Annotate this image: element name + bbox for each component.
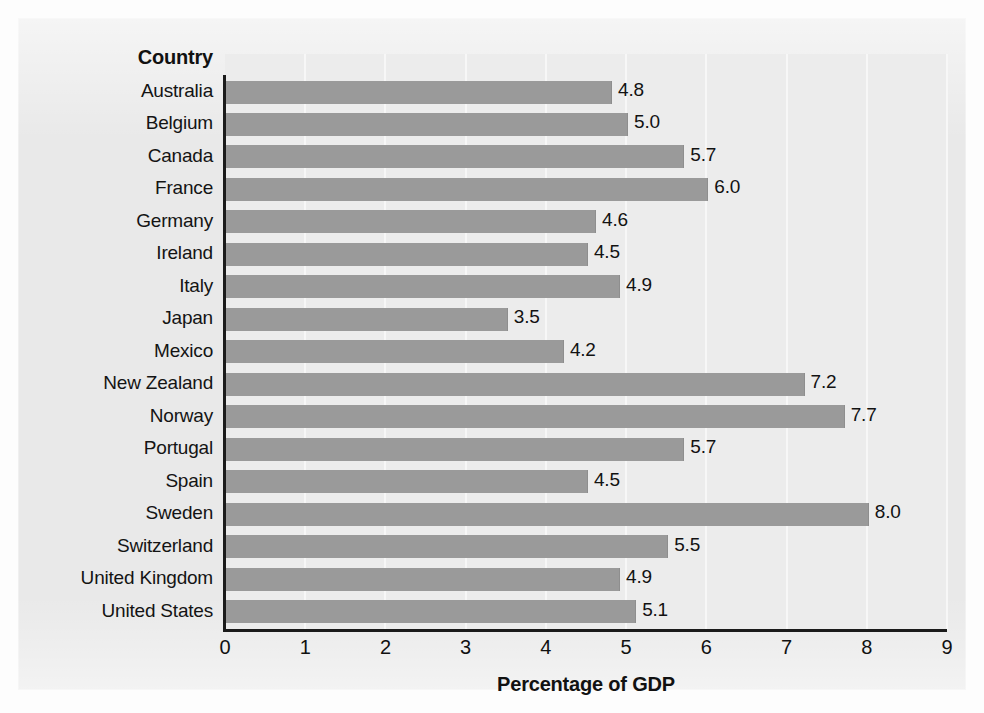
bar-value-label: 4.2	[570, 339, 596, 361]
bar	[226, 373, 805, 396]
bar-value-label: 4.9	[626, 566, 652, 588]
bar-value-label: 4.5	[594, 241, 620, 263]
bar	[226, 405, 845, 428]
bar	[226, 113, 628, 136]
x-axis-title: Percentage of GDP	[225, 673, 947, 696]
category-label: Italy	[179, 275, 213, 297]
bar	[226, 438, 684, 461]
bar-row: New Zealand7.2	[18, 369, 984, 401]
category-label: Switzerland	[117, 535, 213, 557]
category-label: Spain	[165, 470, 213, 492]
category-label: Sweden	[146, 502, 213, 524]
category-label: Norway	[150, 405, 213, 427]
category-label: Canada	[148, 145, 213, 167]
x-axis-tick-labels: 0123456789	[18, 636, 984, 666]
bar-row: United Kingdom4.9	[18, 564, 984, 596]
category-label: France	[155, 177, 213, 199]
bar	[226, 210, 596, 233]
bar-rows: Australia4.8Belgium5.0Canada5.7France6.0…	[18, 77, 984, 629]
bar-row: Sweden8.0	[18, 499, 984, 531]
figure: Country Australia4.8Belgium5.0Canada5.7F…	[0, 0, 984, 713]
bar-value-label: 5.0	[634, 111, 660, 133]
x-axis-tick-label: 1	[285, 636, 325, 659]
bar	[226, 535, 668, 558]
bar-value-label: 4.9	[626, 274, 652, 296]
bar-value-label: 5.7	[690, 436, 716, 458]
category-label: New Zealand	[103, 372, 213, 394]
bar	[226, 600, 636, 623]
bar-value-label: 4.8	[618, 79, 644, 101]
bar-row: France6.0	[18, 174, 984, 206]
x-axis-line	[223, 629, 947, 632]
chart-panel: Country Australia4.8Belgium5.0Canada5.7F…	[18, 18, 966, 690]
bar-row: United States5.1	[18, 597, 984, 629]
bar	[226, 340, 564, 363]
bar-value-label: 5.7	[690, 144, 716, 166]
bar	[226, 243, 588, 266]
category-label: Australia	[141, 80, 213, 102]
bar-row: Portugal5.7	[18, 434, 984, 466]
bar-value-label: 7.2	[811, 371, 837, 393]
category-label: Belgium	[146, 112, 213, 134]
bar-row: Italy4.9	[18, 272, 984, 304]
bar	[226, 503, 869, 526]
x-axis-tick-label: 5	[606, 636, 646, 659]
x-axis-tick-label: 0	[205, 636, 245, 659]
bar	[226, 308, 508, 331]
bar-value-label: 7.7	[851, 404, 877, 426]
bar-row: Norway7.7	[18, 402, 984, 434]
bar-row: Canada5.7	[18, 142, 984, 174]
bar-value-label: 4.6	[602, 209, 628, 231]
x-axis-tick-label: 4	[526, 636, 566, 659]
x-axis-tick-label: 2	[365, 636, 405, 659]
bar-row: Australia4.8	[18, 77, 984, 109]
bar-value-label: 6.0	[714, 176, 740, 198]
bar-value-label: 5.1	[642, 599, 668, 621]
bar	[226, 145, 684, 168]
x-axis-tick-label: 7	[767, 636, 807, 659]
category-label: Portugal	[144, 437, 213, 459]
bar	[226, 568, 620, 591]
bar-value-label: 5.5	[674, 534, 700, 556]
category-label: Mexico	[154, 340, 213, 362]
bar-row: Belgium5.0	[18, 109, 984, 141]
x-axis-tick-label: 9	[927, 636, 967, 659]
x-axis-tick-label: 6	[686, 636, 726, 659]
country-column-header: Country	[78, 46, 213, 69]
bar-row: Mexico4.2	[18, 337, 984, 369]
bar	[226, 178, 708, 201]
category-label: United States	[102, 600, 213, 622]
bar-value-label: 8.0	[875, 501, 901, 523]
bar-value-label: 4.5	[594, 469, 620, 491]
bar-value-label: 3.5	[514, 306, 540, 328]
category-label: United Kingdom	[81, 567, 213, 589]
bar-row: Germany4.6	[18, 207, 984, 239]
bar	[226, 470, 588, 493]
category-label: Ireland	[156, 242, 213, 264]
bar-row: Japan3.5	[18, 304, 984, 336]
bar	[226, 81, 612, 104]
x-axis-tick-label: 8	[847, 636, 887, 659]
x-axis-tick-label: 3	[446, 636, 486, 659]
bar	[226, 275, 620, 298]
category-label: Germany	[136, 210, 213, 232]
bar-row: Ireland4.5	[18, 239, 984, 271]
bar-row: Spain4.5	[18, 467, 984, 499]
category-label: Japan	[162, 307, 213, 329]
bar-row: Switzerland5.5	[18, 532, 984, 564]
